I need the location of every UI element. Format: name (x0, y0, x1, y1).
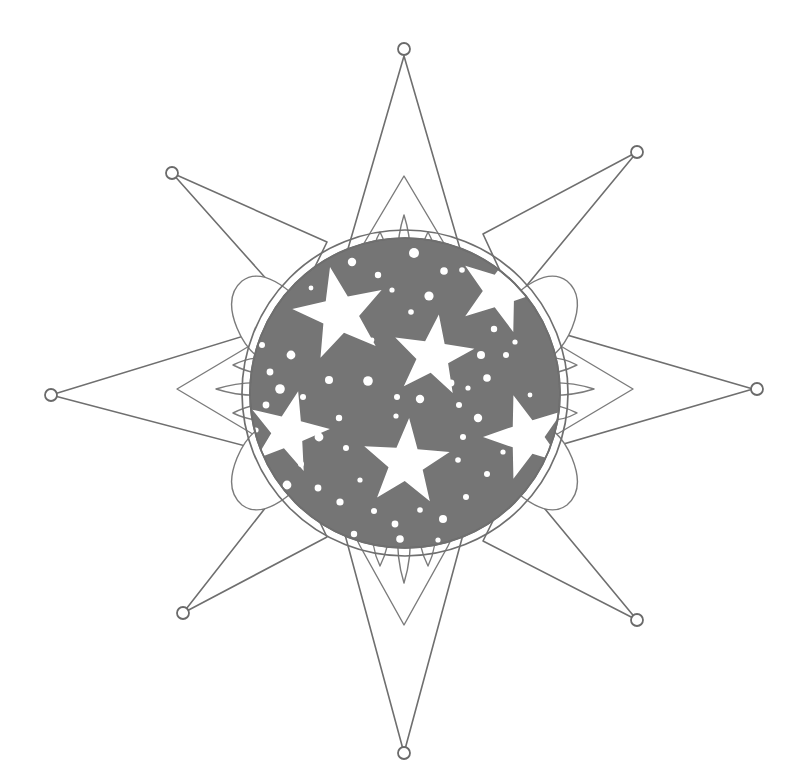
speckle-dot (408, 309, 414, 315)
speckle-dot (440, 267, 448, 275)
speckle-dot (503, 352, 509, 358)
speckle-dot (343, 445, 349, 451)
speckle-dot (409, 248, 419, 258)
speckle-dot (463, 494, 469, 500)
speckle-dot (263, 402, 270, 409)
speckle-dot (336, 415, 342, 421)
speckle-dot (392, 521, 399, 528)
speckle-dot (259, 342, 265, 348)
speckle-dot (474, 414, 482, 422)
speckle-dot (460, 434, 466, 440)
tip-circle-southwest (177, 607, 189, 619)
artboard: Eight-pointed star with starry disc (0, 0, 806, 780)
speckle-dot (336, 498, 343, 505)
speckle-dot (309, 286, 314, 291)
speckle-dot (435, 537, 440, 542)
tip-circle-south (398, 747, 410, 759)
speckle-dot (287, 351, 296, 360)
speckle-dot (375, 272, 381, 278)
speckle-dot (439, 515, 447, 523)
speckle-dot (389, 287, 394, 292)
speckle-dot (459, 267, 465, 273)
speckle-dot (455, 457, 461, 463)
speckle-dot (484, 471, 490, 477)
speckle-dot (315, 485, 322, 492)
speckle-dot (465, 385, 470, 390)
speckle-dot (417, 507, 423, 513)
speckle-dot (456, 402, 462, 408)
speckle-dot (483, 374, 491, 382)
speckle-dot (267, 369, 274, 376)
speckle-dot (348, 258, 356, 266)
speckle-dot (416, 395, 424, 403)
tip-circle-north (398, 43, 410, 55)
speckle-dot (283, 481, 292, 490)
speckle-dot (357, 477, 362, 482)
speckle-dot (396, 535, 404, 543)
speckle-dot (363, 376, 373, 386)
speckle-dot (491, 326, 497, 332)
speckle-dot (512, 339, 517, 344)
tip-circle-northeast (631, 146, 643, 158)
speckle-dot (351, 531, 357, 537)
tip-circle-east (751, 383, 763, 395)
tip-circle-west (45, 389, 57, 401)
speckle-dot (528, 393, 533, 398)
speckle-dot (500, 449, 505, 454)
tip-circle-northwest (166, 167, 178, 179)
speckle-dot (477, 351, 485, 359)
speckle-dot (275, 384, 285, 394)
speckle-dot (325, 376, 333, 384)
speckle-dot (394, 394, 400, 400)
star-medallion-illustration: Eight-pointed star with starry disc (0, 0, 806, 780)
tip-circle-southeast (631, 614, 643, 626)
speckle-dot (371, 508, 377, 514)
speckle-dot (424, 291, 433, 300)
speckle-dot (300, 394, 306, 400)
speckle-dot (393, 413, 398, 418)
